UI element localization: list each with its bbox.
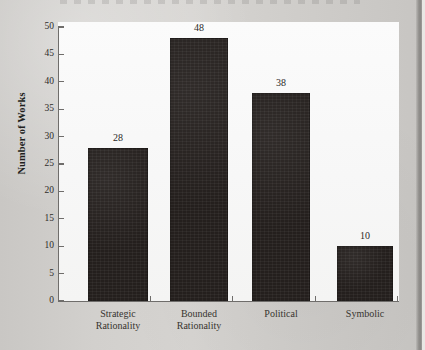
x-axis-category-label: Symbolic [320,308,410,320]
y-axis-tick-label: 35 [30,104,54,114]
x-axis-category-label-line: Rationality [154,320,244,332]
y-axis-tick-label-text: 35 [32,104,54,114]
y-axis-tick [59,81,64,82]
y-axis-tick [59,191,64,192]
y-axis-tick-label-text: 20 [32,186,54,196]
y-axis-tick-label: 15 [30,214,54,224]
y-axis-tick-label-text: 45 [32,49,54,59]
x-axis-category-label: Political [236,308,326,320]
y-axis-tick-label: 0 [30,296,54,306]
y-axis-tick-label-text: 25 [32,159,54,169]
y-axis-tick [59,109,64,110]
y-axis-tick-label: 20 [30,186,54,196]
x-axis-tick [150,296,151,301]
y-axis-tick [59,218,64,219]
x-axis-category-label: BoundedRationality [154,308,244,331]
y-axis-tick-label: 30 [30,132,54,142]
x-axis-category-label: StrategicRationality [73,308,163,331]
bar-value-label: 10 [337,231,393,241]
x-axis-category-label-line: Bounded [154,308,244,320]
x-axis-tick [397,296,398,301]
y-axis-tick-label: 5 [30,269,54,279]
y-axis-tick-label-text: 50 [32,22,54,32]
y-axis-tick-label-text: 15 [32,214,54,224]
y-axis-tick-label-text: 30 [32,132,54,142]
y-axis-tick [59,246,64,247]
bar [337,246,393,301]
y-axis-tick [59,136,64,137]
y-axis-tick-label-text: 5 [32,269,54,279]
bar [170,38,228,301]
y-axis-tick-label: 40 [30,77,54,87]
y-axis-tick [59,273,64,274]
x-axis-tick [232,296,233,301]
y-axis-tick-label-text: 40 [32,77,54,87]
x-axis-category-label-line: Symbolic [320,308,410,320]
y-axis-tick-label-text: 10 [32,241,54,251]
x-axis-category-label-line: Political [236,308,326,320]
bar [88,148,148,301]
x-axis-tick [315,296,316,301]
bar-value-label: 38 [252,78,310,88]
bar-value-label: 48 [170,23,228,33]
x-axis-category-label-line: Strategic [73,308,163,320]
y-axis-tick-label-text: 0 [32,296,54,306]
y-axis-tick [59,54,64,55]
x-axis-category-label-line: Rationality [73,320,163,332]
y-axis-tick [59,300,64,301]
bar-chart: Number of Works 05101520253035404550 284… [0,0,425,350]
y-axis-title: Number of Works [16,75,27,193]
bar-value-label: 28 [88,133,148,143]
y-axis-tick [59,26,64,27]
y-axis-tick-label: 25 [30,159,54,169]
y-axis-tick-label: 10 [30,241,54,251]
bar [252,93,310,301]
y-axis-tick-label: 50 [30,22,54,32]
y-axis-tick-label: 45 [30,49,54,59]
y-axis-tick [59,163,64,164]
